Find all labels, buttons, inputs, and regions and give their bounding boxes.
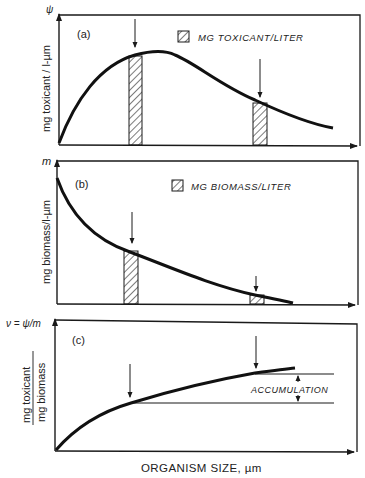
panel-b-biomass-curve <box>57 178 293 303</box>
panel-c-axis-symbol: ν = ψ/m <box>6 318 41 329</box>
panel-c-tag: (c) <box>72 334 85 346</box>
panel-a-legend-swatch <box>178 31 189 42</box>
panel-b-axis-symbol: m <box>42 155 51 167</box>
panel-a-toxicant-curve <box>59 52 333 143</box>
panel-b-tag: (b) <box>75 178 88 190</box>
diagram-canvas: (a) ψ mg toxicant / l-µm MG TOXICANT/LIT… <box>0 0 365 478</box>
panel-c-concentration-curve <box>56 368 295 450</box>
panel-c-x-axis <box>55 451 354 452</box>
panel-b: (b) m mg biomass/l-µm MG BIOMASS/LITER <box>40 155 358 305</box>
panel-c-ylabel-denominator: mg biomass <box>35 362 47 422</box>
panel-b-ylabel: mg biomass/l-µm <box>40 200 52 284</box>
x-axis-label: ORGANISM SIZE, µm <box>141 462 262 474</box>
panel-c-ylabel-numerator: mg toxicant <box>20 367 32 423</box>
panel-a: (a) ψ mg toxicant / l-µm MG TOXICANT/LIT… <box>40 4 360 146</box>
panel-b-bar-small-organisms <box>124 251 138 304</box>
panel-a-tag: (a) <box>77 28 90 40</box>
panel-a-bar-small-organisms <box>129 56 142 145</box>
panel-c-accumulation-label: ACCUMULATION <box>250 385 328 395</box>
panel-a-ylabel: mg toxicant / l-µm <box>40 45 52 132</box>
panel-b-legend-label: MG BIOMASS/LITER <box>191 181 291 192</box>
panel-b-legend-swatch <box>172 180 183 191</box>
panel-a-bar-large-organisms <box>253 103 267 145</box>
panel-b-x-axis <box>57 304 355 305</box>
panel-a-legend-label: MG TOXICANT/LITER <box>198 32 304 43</box>
panel-c: (c) ν = ψ/m ACCUMULATION mg toxicant mg … <box>6 318 357 452</box>
panel-a-x-axis <box>59 145 357 146</box>
panel-a-axis-symbol: ψ <box>46 4 54 15</box>
